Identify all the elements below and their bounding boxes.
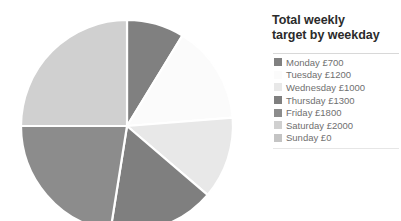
legend-swatch-icon: [274, 109, 282, 117]
pie-slice[interactable]: [21, 20, 127, 126]
pie-chart-figure: Total weekly target by weekday Monday £7…: [0, 0, 401, 221]
legend-item-label: Saturday £2000: [286, 120, 353, 131]
legend-swatch-icon: [274, 71, 282, 79]
chart-title: Total weekly target by weekday: [272, 13, 401, 42]
legend-swatch-icon: [274, 121, 282, 129]
pie-slice[interactable]: [21, 126, 127, 221]
chart-legend-panel: Total weekly target by weekday Monday £7…: [268, 0, 401, 221]
legend-item[interactable]: Wednesday £1000: [273, 81, 401, 94]
legend-item[interactable]: Saturday £2000: [273, 119, 401, 132]
legend-item-label: Tuesday £1200: [286, 69, 351, 80]
chart-title-line-1: Total weekly: [272, 13, 345, 27]
legend-swatch-icon: [274, 134, 282, 142]
legend-swatch-icon: [274, 58, 282, 66]
legend-item[interactable]: Tuesday £1200: [273, 69, 401, 82]
legend-item-label: Thursday £1300: [286, 95, 355, 106]
pie-chart-plot-area: [0, 0, 255, 221]
chart-title-line-2: target by weekday: [272, 28, 380, 42]
legend-item-label: Friday £1800: [286, 107, 341, 118]
legend-item[interactable]: Friday £1800: [273, 106, 401, 119]
legend-swatch-icon: [274, 96, 282, 104]
legend-top-divider: [273, 53, 399, 54]
legend-item[interactable]: Sunday £0: [273, 132, 401, 145]
legend-bottom-divider: [273, 148, 399, 149]
chart-legend-list: Monday £700Tuesday £1200Wednesday £1000T…: [273, 56, 401, 144]
legend-item[interactable]: Thursday £1300: [273, 94, 401, 107]
pie-chart-svg: [0, 0, 255, 221]
legend-item-label: Monday £700: [286, 57, 344, 68]
legend-item-label: Sunday £0: [286, 132, 331, 143]
legend-item-label: Wednesday £1000: [286, 82, 365, 93]
legend-item[interactable]: Monday £700: [273, 56, 401, 69]
legend-swatch-icon: [274, 83, 282, 91]
